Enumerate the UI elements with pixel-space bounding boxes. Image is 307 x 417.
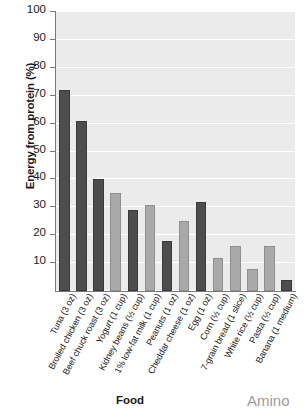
bar bbox=[93, 179, 104, 291]
bar bbox=[110, 193, 121, 291]
y-axis-tick-label: 30 bbox=[10, 198, 46, 210]
bar-series bbox=[56, 11, 295, 291]
y-axis-tick-label: 40 bbox=[10, 170, 46, 182]
bar bbox=[162, 241, 173, 291]
x-axis-title: Food bbox=[0, 394, 260, 406]
bar-chart: Energy from protein (%) 1009080706050403… bbox=[0, 0, 307, 417]
bar bbox=[281, 280, 292, 291]
bar bbox=[145, 205, 156, 291]
y-axis-tick-label: 90 bbox=[10, 31, 46, 43]
y-axis-tick-label: 100 bbox=[10, 3, 46, 15]
bar bbox=[230, 246, 241, 291]
bar bbox=[59, 90, 70, 291]
x-axis-category-labels: Tuna (3 oz)Broiled chicken (3 oz)Beef ch… bbox=[0, 292, 307, 392]
y-axis-tick-label: 50 bbox=[10, 143, 46, 155]
y-axis-tick-label: 20 bbox=[10, 226, 46, 238]
bar bbox=[247, 269, 258, 291]
y-axis-tick-label: 10 bbox=[10, 254, 46, 266]
bar bbox=[76, 121, 87, 291]
y-axis-tick-label: 70 bbox=[10, 87, 46, 99]
bar bbox=[264, 246, 275, 291]
bar bbox=[128, 210, 139, 291]
bar bbox=[179, 221, 190, 291]
bar bbox=[196, 202, 207, 291]
page-corner-text: Amino bbox=[247, 392, 290, 409]
y-axis-tick-label: 80 bbox=[10, 59, 46, 71]
bar bbox=[213, 258, 224, 291]
y-axis-tick-label: 60 bbox=[10, 115, 46, 127]
